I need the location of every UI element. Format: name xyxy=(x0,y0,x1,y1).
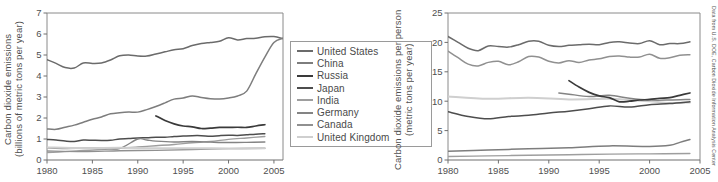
source-credit: Data from U.S. DOE, Carbon Dioxide Infor… xyxy=(711,6,717,176)
legend-item-label: Canada xyxy=(317,119,353,130)
legend-swatch-line-icon xyxy=(297,99,313,101)
x-axis-tick-label: 1995 xyxy=(589,165,610,176)
chart-total-emissions: Carbon dioxide emissions (billions of me… xyxy=(0,0,360,182)
x-axis-tick-label: 2005 xyxy=(689,165,710,176)
series-line xyxy=(448,37,690,51)
legend-item-label: United States xyxy=(317,46,378,57)
y-axis-tick-label: 20 xyxy=(432,37,443,48)
x-axis-tick-label: 1985 xyxy=(82,165,103,176)
y-axis-tick-label: 1 xyxy=(36,133,41,144)
figure-container: Carbon dioxide emissions (billions of me… xyxy=(0,0,718,182)
legend-swatch-line-icon xyxy=(297,112,313,114)
plot-frame xyxy=(448,13,700,160)
y-axis-tick-label: 6 xyxy=(36,28,41,39)
y-axis-tick-label: 4 xyxy=(36,70,41,81)
legend-swatch-line-icon xyxy=(297,87,313,89)
series-line xyxy=(448,154,690,157)
series-line xyxy=(448,51,690,66)
y-axis-tick-label: 15 xyxy=(432,66,443,77)
legend-swatch-line-icon xyxy=(297,136,313,138)
y-axis-tick-label: 2 xyxy=(36,112,41,123)
y-axis-tick-label: 25 xyxy=(432,7,443,18)
y-axis-tick-label: 10 xyxy=(432,96,443,107)
legend-swatch-line-icon xyxy=(297,124,313,126)
x-axis-tick-label: 1985 xyxy=(488,165,509,176)
x-axis-tick-label: 1995 xyxy=(173,165,194,176)
legend-item-label: India xyxy=(317,95,339,106)
series-line xyxy=(156,116,265,129)
series-line xyxy=(47,134,265,142)
x-axis-tick-label: 1990 xyxy=(127,165,148,176)
legend-swatch-line-icon xyxy=(297,75,313,77)
series-line xyxy=(47,36,283,68)
x-axis-tick-label: 2000 xyxy=(218,165,239,176)
legend-item-label: China xyxy=(317,58,344,69)
x-axis-tick-label: 1980 xyxy=(36,165,57,176)
y-axis-tick-label: 7 xyxy=(36,7,41,18)
chart-per-capita-emissions: Carbon dioxide emissions per person (met… xyxy=(390,0,718,182)
legend-item-label: Russia xyxy=(317,70,348,81)
y-axis-tick-label: 3 xyxy=(36,91,41,102)
legend-item-label: Japan xyxy=(317,83,345,94)
legend-swatch-line-icon xyxy=(297,50,313,52)
legend-item-label: United Kingdom xyxy=(317,132,390,143)
x-axis-tick-label: 2000 xyxy=(639,165,660,176)
series-line xyxy=(448,102,690,119)
caption-strip-cropped xyxy=(0,175,718,182)
plot-area-right: 0510152025198019851990199520002005 xyxy=(390,0,718,182)
series-line xyxy=(47,147,265,148)
x-axis-tick-label: 2005 xyxy=(263,165,284,176)
x-axis-tick-label: 1990 xyxy=(538,165,559,176)
legend-item-label: Germany xyxy=(317,107,359,118)
y-axis-tick-label: 5 xyxy=(36,49,41,60)
series-line xyxy=(448,139,690,151)
legend-swatch-line-icon xyxy=(297,62,313,64)
x-axis-tick-label: 1980 xyxy=(437,165,458,176)
y-axis-tick-label: 5 xyxy=(437,125,442,136)
